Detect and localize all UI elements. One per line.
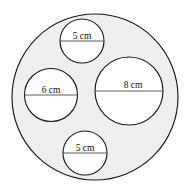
circle-group-left-6cm: 6 cm <box>25 69 78 122</box>
label-top-5cm: 5 cm <box>73 31 92 41</box>
circle-group-right-8cm: 8 cm <box>95 57 163 125</box>
geometry-diagram: 5 cm 6 cm 8 cm 5 cm <box>0 0 190 194</box>
circle-group-bottom-5cm: 5 cm <box>63 131 107 175</box>
circles-figure: 5 cm 6 cm 8 cm 5 cm <box>0 0 190 194</box>
circle-group-top-5cm: 5 cm <box>60 19 104 63</box>
label-left-6cm: 6 cm <box>42 85 61 95</box>
label-right-8cm: 8 cm <box>124 80 143 90</box>
label-bottom-5cm: 5 cm <box>76 143 95 153</box>
